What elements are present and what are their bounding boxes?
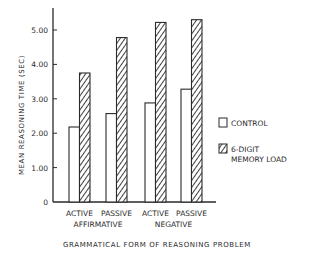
- y-tick-label: 4.00: [31, 60, 48, 69]
- y-tick-label: 2.00: [31, 129, 48, 138]
- y-tick-label: 5.00: [31, 26, 48, 35]
- bar-memory-load: [117, 38, 128, 202]
- legend-label: MEMORY LOAD: [231, 155, 287, 164]
- legend-label: 6-DIGIT: [231, 145, 259, 154]
- y-tick-label: 1.00: [31, 164, 48, 173]
- bar-memory-load: [156, 22, 167, 202]
- x-tick-label: ACTIVE: [142, 209, 169, 218]
- x-axis-label: GRAMMATICAL FORM OF REASONING PROBLEM: [63, 241, 251, 249]
- legend: CONTROL6-DIGITMEMORY LOAD: [219, 118, 287, 164]
- y-axis-label: MEAN REASONING TIME (SEC): [18, 55, 26, 175]
- y-tick-label: 0: [43, 198, 48, 207]
- bar-control: [145, 103, 156, 202]
- legend-label: CONTROL: [231, 119, 268, 128]
- x-tick-label: PASSIVE: [101, 209, 132, 218]
- x-group-label: NEGATIVE: [155, 220, 193, 229]
- x-tick-label: ACTIVE: [66, 209, 93, 218]
- bar-control: [181, 89, 192, 202]
- x-tick-label: PASSIVE: [176, 209, 207, 218]
- bar-control: [106, 114, 117, 202]
- bar-memory-load: [80, 73, 91, 202]
- y-tick-label: 3.00: [31, 95, 48, 104]
- bar-memory-load: [192, 20, 203, 202]
- bar-chart: 01.002.003.004.005.00 ACTIVEPASSIVEACTIV…: [0, 0, 312, 257]
- x-group-label: AFFIRMATIVE: [74, 220, 123, 229]
- legend-swatch-control: [219, 118, 227, 127]
- bar-control: [69, 127, 80, 202]
- legend-swatch-memory-load: [219, 144, 227, 153]
